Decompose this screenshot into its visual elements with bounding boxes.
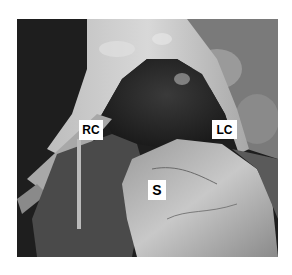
label-rc: RC: [79, 120, 103, 140]
photo-illustration: [17, 19, 278, 257]
label-lc: LC: [212, 120, 237, 139]
surgical-photo: [17, 19, 278, 257]
label-s: S: [148, 180, 166, 200]
